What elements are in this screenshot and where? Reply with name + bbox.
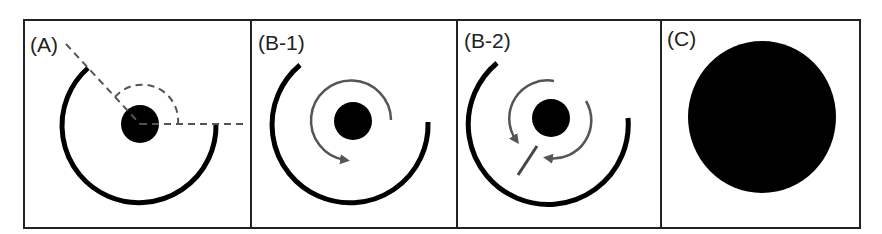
panel-label-c: (C) <box>667 27 696 50</box>
panel-label-b1: (B-1) <box>258 31 305 54</box>
panel-c: (C) <box>667 27 836 193</box>
panel-label-a: (A) <box>30 33 58 56</box>
center-dot <box>334 102 372 140</box>
panel-b1: (B-1) <box>258 31 428 203</box>
panel-b2: (B-2) <box>464 29 628 204</box>
jet-line <box>518 146 537 175</box>
panel-a: (A) <box>30 33 246 203</box>
filled-disk <box>688 41 836 193</box>
center-dot <box>532 99 570 137</box>
panel-label-b2: (B-2) <box>464 29 511 52</box>
figure-canvas: (A) (B-1) (B-2) (C) <box>0 0 882 234</box>
